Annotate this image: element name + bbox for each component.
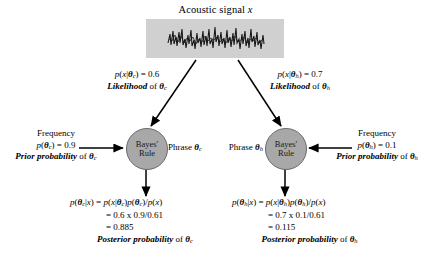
posterior-caption-h: Posterior probability of θh [232, 234, 387, 244]
posterior-caption-c-bold: Posterior probability [97, 234, 173, 244]
posterior-block-h: p(θh|x) = p(x|θh)p(θh)/p(x) = 0.7 x 0.1/… [232, 196, 387, 245]
likelihood-caption-h: Likelihood of θh [236, 81, 364, 93]
likelihood-caption-h-bold: Likelihood [270, 81, 310, 91]
prior-label-c: Frequency p(θc) = 0.9 Prior probability … [2, 128, 110, 163]
bayes-rule-node-h[interactable]: Bayes' Rule [265, 128, 307, 170]
diagram-canvas: Acoustic signal x p(x|θc) = 0.6 [0, 0, 431, 272]
posterior-line3-h: = 0.115 [232, 221, 387, 233]
posterior-line1-h: p(θh|x) = p(x|θh)p(θh)/p(x) [232, 196, 387, 209]
prior-caption-h-bold: Prior probability [336, 151, 398, 161]
waveform-icon [146, 19, 284, 58]
likelihood-formula-h: p(x|θh) = 0.7 [236, 69, 364, 81]
likelihood-caption-h-rest: of θh [312, 81, 330, 91]
signal-title-var: x [248, 4, 253, 15]
signal-title-text: Acoustic signal [178, 4, 245, 15]
phrase-label-h: Phrase θh [219, 142, 263, 152]
prior-caption-h: Prior probability of θh [323, 151, 431, 163]
signal-title: Acoustic signal x [0, 4, 431, 15]
prior-formula-h: p(θh) = 0.1 [323, 140, 431, 152]
bayes-rule-node-c[interactable]: Bayes' Rule [126, 128, 168, 170]
posterior-caption-h-rest: of θh [340, 234, 358, 244]
prior-caption-h-rest: of θh [400, 151, 418, 161]
phrase-label-c: Phrase θc [168, 142, 202, 152]
posterior-caption-h-bold: Posterior probability [261, 234, 337, 244]
posterior-line2-h: = 0.7 x 0.1/0.61 [232, 209, 387, 221]
node-c-label-line2: Rule [139, 149, 155, 158]
node-h-label-line2: Rule [278, 149, 294, 158]
likelihood-label-h: p(x|θh) = 0.7 Likelihood of θh [236, 69, 364, 92]
prior-header-h: Frequency [323, 128, 431, 140]
acoustic-signal-box [146, 19, 284, 58]
likelihood-label-c: p(x|θc) = 0.6 Likelihood of θc [78, 69, 196, 92]
likelihood-formula-c: p(x|θc) = 0.6 [78, 69, 196, 81]
likelihood-caption-c: Likelihood of θc [78, 81, 196, 93]
prior-label-h: Frequency p(θh) = 0.1 Prior probability … [323, 128, 431, 163]
posterior-line1-c: p(θc|x) = p(x|θc)p(θc)/p(x) [70, 196, 220, 209]
likelihood-caption-c-bold: Likelihood [107, 81, 147, 91]
posterior-line2-c: = 0.6 x 0.9/0.61 [70, 209, 220, 221]
prior-caption-c: Prior probability of θc [2, 151, 110, 163]
prior-formula-c: p(θc) = 0.9 [2, 140, 110, 152]
posterior-block-c: p(θc|x) = p(x|θc)p(θc)/p(x) = 0.6 x 0.9/… [70, 196, 220, 245]
likelihood-caption-c-rest: of θc [149, 81, 166, 91]
posterior-caption-c: Posterior probability of θc [70, 234, 220, 244]
prior-caption-c-rest: of θc [79, 151, 96, 161]
prior-header-c: Frequency [2, 128, 110, 140]
prior-caption-c-bold: Prior probability [15, 151, 77, 161]
posterior-line3-c: = 0.885 [70, 221, 220, 233]
posterior-caption-c-rest: of θc [176, 234, 193, 244]
